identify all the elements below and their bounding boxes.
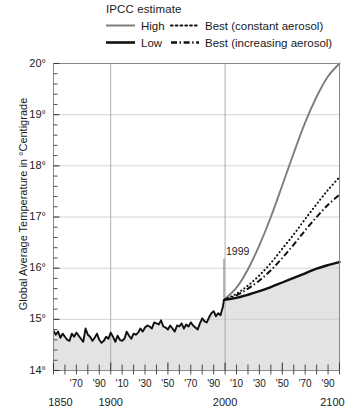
x-major-label-1900: 1900	[91, 396, 131, 408]
annotation-1999: 1999	[226, 245, 249, 257]
chart-root: IPCC estimate High Best (constant aeroso…	[0, 0, 361, 419]
y-tick-label-18: 18°	[16, 159, 46, 171]
x-major-label-2100: 2100	[313, 396, 353, 408]
y-tick-label-17: 17°	[16, 210, 46, 222]
plot-area: 14°15°16°17°18°19°20°'70'90'10'30'50'70'…	[0, 0, 361, 419]
y-tick-label-20: 20°	[16, 57, 46, 69]
y-tick-label-19: 19°	[16, 108, 46, 120]
y-tick-label-16: 16°	[16, 261, 46, 273]
x-tick-label-2090: '90	[314, 378, 342, 389]
y-tick-label-14: 14°	[16, 364, 46, 376]
chart-canvas	[0, 0, 361, 419]
y-tick-label-15: 15°	[16, 312, 46, 324]
x-major-label-1850: 1850	[41, 396, 81, 408]
x-major-label-2000: 2000	[205, 396, 245, 408]
